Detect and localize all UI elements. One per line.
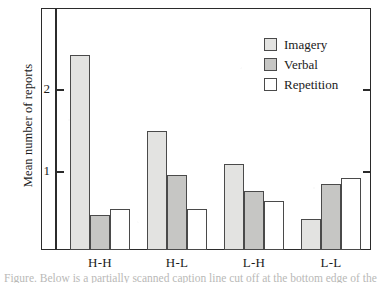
bar-l-l-verbal <box>321 184 341 250</box>
caption-sliver: Figure. Below is a partially scanned cap… <box>4 272 379 283</box>
y-axis-title: Mean number of reports <box>21 51 36 201</box>
bar-h-l-verbal <box>167 175 187 250</box>
legend-swatch-imagery-icon <box>264 38 277 51</box>
legend-item-repetition: Repetition <box>264 77 338 92</box>
bar-l-h-repetition <box>264 201 284 250</box>
legend-swatch-repetition-icon <box>264 78 277 91</box>
legend-label-repetition: Repetition <box>284 78 338 91</box>
bar-l-h-imagery <box>224 164 244 250</box>
bar-h-l-imagery <box>147 131 167 250</box>
x-axis-label-l-h: L-H <box>219 256 289 270</box>
x-axis-label-h-h: H-H <box>65 256 135 270</box>
bar-h-h-repetition <box>110 209 130 250</box>
legend-item-verbal: Verbal <box>264 57 338 72</box>
x-axis-label-l-l: L-L <box>296 256 366 270</box>
bar-l-h-verbal <box>244 191 264 250</box>
bar-l-l-repetition <box>341 178 361 250</box>
bar-chart-figure: 2 1 Mean number of reports H-HH-LL-HL-L … <box>0 0 383 285</box>
bar-h-h-verbal <box>90 215 110 250</box>
bar-l-l-imagery <box>301 219 321 250</box>
legend-label-imagery: Imagery <box>284 38 327 51</box>
bar-h-l-repetition <box>187 209 207 250</box>
legend-label-verbal: Verbal <box>284 58 318 71</box>
chart-legend: Imagery Verbal Repetition <box>264 37 338 92</box>
x-axis-label-h-l: H-L <box>142 256 212 270</box>
legend-swatch-verbal-icon <box>264 58 277 71</box>
bar-h-h-imagery <box>70 55 90 250</box>
legend-item-imagery: Imagery <box>264 37 338 52</box>
